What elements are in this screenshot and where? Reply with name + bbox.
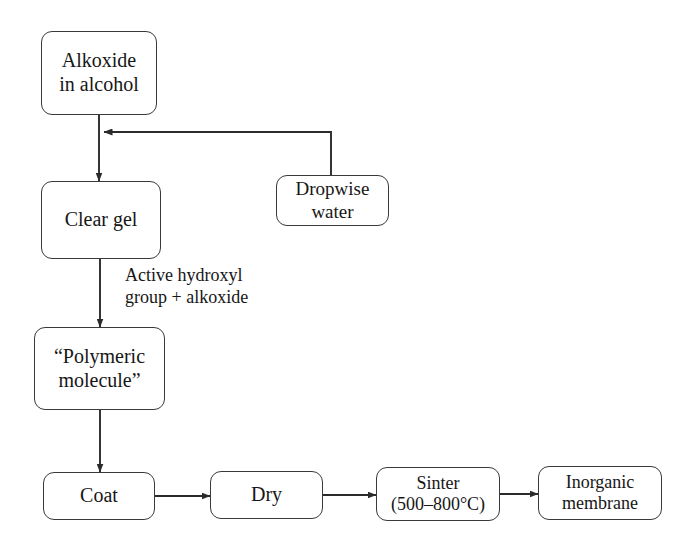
node-inorganic-membrane-label: Inorganic membrane [558, 472, 642, 514]
node-alkoxide-in-alcohol[interactable]: Alkoxide in alcohol [41, 31, 157, 115]
node-inorganic-membrane[interactable]: Inorganic membrane [538, 466, 662, 520]
flowchart-canvas: Alkoxide in alcohol Clear gel Dropwise w… [0, 0, 678, 554]
node-dry-label: Dry [247, 483, 286, 507]
edge-dropwise-water-feedback [104, 132, 331, 175]
node-coat[interactable]: Coat [43, 472, 155, 520]
node-dropwise-water[interactable]: Dropwise water [276, 175, 389, 226]
node-dry[interactable]: Dry [210, 471, 323, 519]
node-coat-label: Coat [76, 484, 122, 508]
node-clear-gel-label: Clear gel [61, 208, 142, 232]
node-clear-gel[interactable]: Clear gel [41, 181, 161, 259]
node-sinter[interactable]: Sinter (500–800°C) [376, 467, 500, 521]
node-polymeric-molecule[interactable]: “Polymeric molecule” [34, 327, 165, 410]
node-sinter-label: Sinter (500–800°C) [387, 473, 489, 515]
node-alkoxide-in-alcohol-label: Alkoxide in alcohol [55, 49, 142, 96]
edge-label-active-hydroxyl: Active hydroxyl group + alkoxide [125, 265, 325, 308]
node-dropwise-water-label: Dropwise water [292, 178, 374, 223]
node-polymeric-molecule-label: “Polymeric molecule” [50, 345, 149, 392]
